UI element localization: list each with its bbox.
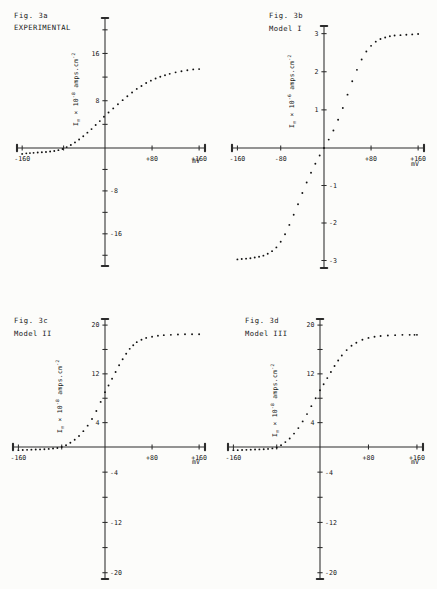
x-axis-title-3a: mV (192, 157, 200, 165)
x-axis-title-3b: mV (411, 160, 419, 168)
y-tick-label-3a-1: -16 (110, 230, 122, 238)
y-tick-label-3c-7: 12 (92, 370, 100, 378)
panel-subtitle-3a: EXPERIMENTAL (14, 23, 71, 32)
y-tick-label-3b-4: 2 (315, 68, 319, 76)
y-tick-label-3c-0: -20 (110, 569, 122, 577)
x-axis-title-3c: mV (192, 458, 200, 466)
x-tick-label-3c-3: +80 (146, 454, 158, 462)
y-tick-label-3b-3: 1 (315, 106, 319, 114)
y-tick-label-3d-0: -20 (325, 569, 337, 577)
panel-fig-3b: Fig. 3bModel I-160-80+80+160-3-2-1123mVI… (219, 0, 437, 294)
x-axis-title-3d: mV (411, 458, 419, 466)
x-tick-label-3a-0: -160 (14, 155, 30, 163)
y-axis-title-3c: Im × 10-8 amps.cm-2 (55, 360, 64, 433)
y-axis-title-3b: Im × 10-6 amps.cm-2 (287, 55, 296, 128)
y-axis-title-3d: Im × 10-8 amps.cm-2 (270, 364, 279, 437)
panel-fig-3a: Fig. 3aEXPERIMENTAL-160+80+160-16-8816mV… (0, 0, 218, 294)
data-points-3b (236, 33, 419, 260)
x-tick-label-3b-3: +80 (365, 155, 377, 163)
panel-subtitle-3b: Model I (269, 24, 302, 33)
figure-label-3c: Fig. 3c (14, 316, 48, 325)
svg-text:Im × 10-6 amps.cm-2: Im × 10-6 amps.cm-2 (287, 55, 296, 128)
panel-fig-3d: Fig. 3dModel III-160+80+160-20-12-441220… (219, 295, 437, 589)
figure-label-3a: Fig. 3a (14, 11, 48, 20)
y-tick-label-3c-4: -4 (110, 469, 118, 477)
svg-text:Im × 10-8 amps.cm-2: Im × 10-8 amps.cm-2 (270, 364, 279, 437)
y-tick-label-3d-2: -12 (325, 519, 337, 527)
y-tick-label-3d-4: -4 (325, 469, 333, 477)
y-tick-label-3a-6: 8 (96, 97, 100, 105)
data-points-3c (17, 333, 200, 451)
chart-3d: Fig. 3dModel III-160+80+160-20-12-441220… (219, 295, 437, 589)
y-tick-label-3c-5: 4 (96, 419, 100, 427)
chart-3c: Fig. 3cModel II-160+80+160-20-12-441220m… (0, 295, 218, 589)
y-tick-label-3b-0: -3 (329, 257, 337, 265)
y-tick-label-3d-5: 4 (311, 419, 315, 427)
y-tick-label-3a-8: 16 (92, 50, 100, 58)
y-tick-label-3c-9: 20 (92, 321, 100, 329)
y-tick-label-3b-1: -2 (329, 219, 337, 227)
y-axis-title-3a: Im × 10-8 amps.cm-2 (71, 53, 80, 126)
data-points-3d (232, 334, 417, 451)
figure-sheet: Fig. 3aEXPERIMENTAL-160+80+160-16-8816mV… (0, 0, 437, 589)
panel-subtitle-3c: Model II (14, 329, 52, 338)
x-tick-label-3d-3: +80 (363, 454, 375, 462)
figure-label-3d: Fig. 3d (245, 316, 279, 325)
x-tick-label-3a-3: +80 (146, 155, 158, 163)
panel-subtitle-3d: Model III (245, 329, 288, 338)
y-tick-label-3a-3: -8 (110, 187, 118, 195)
y-tick-label-3c-2: -12 (110, 519, 122, 527)
x-tick-label-3d-0: -160 (225, 454, 241, 462)
x-tick-label-3b-1: -80 (275, 155, 287, 163)
svg-text:Im × 10-8 amps.cm-2: Im × 10-8 amps.cm-2 (55, 360, 64, 433)
panel-fig-3c: Fig. 3cModel II-160+80+160-20-12-441220m… (0, 295, 218, 589)
y-tick-label-3d-9: 20 (307, 321, 315, 329)
chart-3b: Fig. 3bModel I-160-80+80+160-3-2-1123mVI… (219, 0, 437, 294)
figure-label-3b: Fig. 3b (269, 11, 303, 20)
y-tick-label-3b-5: 3 (315, 30, 319, 38)
x-tick-label-3b-0: -160 (229, 155, 245, 163)
x-tick-label-3c-0: -160 (10, 454, 26, 462)
svg-text:Im × 10-8 amps.cm-2: Im × 10-8 amps.cm-2 (71, 53, 80, 126)
y-tick-label-3d-7: 12 (307, 370, 315, 378)
data-points-3a (21, 68, 200, 155)
y-tick-label-3b-2: -1 (329, 182, 337, 190)
chart-3a: Fig. 3aEXPERIMENTAL-160+80+160-16-8816mV… (0, 0, 218, 294)
